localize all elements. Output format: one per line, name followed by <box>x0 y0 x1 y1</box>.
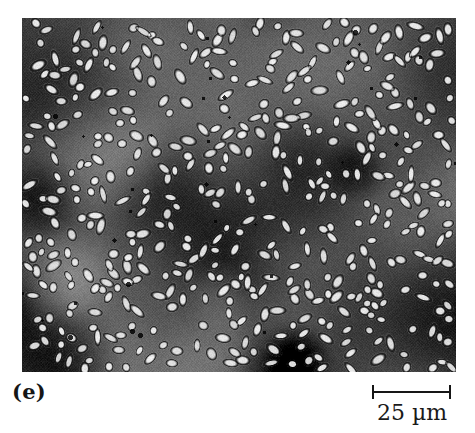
scale-bar-cap-right <box>449 385 451 399</box>
panel-label: (e) <box>12 381 46 402</box>
scale-bar-line <box>372 391 451 393</box>
scale-bar-rule <box>366 384 458 399</box>
figure-panel: (e) 25 µm <box>0 0 475 433</box>
scale-bar: 25 µm <box>366 384 458 424</box>
scale-bar-label: 25 µm <box>366 401 458 424</box>
scale-bar-cap-left <box>372 385 374 399</box>
micrograph-image <box>22 18 456 372</box>
micrograph-canvas <box>22 18 456 372</box>
